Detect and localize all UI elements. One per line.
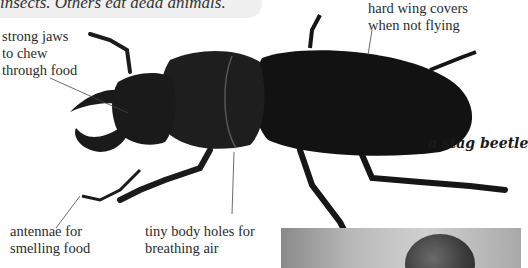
label-holes-line-1: tiny body holes for	[145, 223, 255, 240]
label-holes-line-2: breathing air	[145, 240, 255, 257]
label-jaws-line-3: through food	[2, 62, 77, 79]
label-body-holes: tiny body holes for breathing air	[145, 223, 255, 257]
photo-inset	[281, 228, 521, 268]
label-jaws: strong jaws to chew through food	[2, 28, 77, 79]
label-wings-line-2: when not flying	[368, 17, 468, 34]
caption: a stag beetle	[428, 135, 528, 151]
label-antennae-line-2: smelling food	[10, 240, 90, 257]
label-antennae-line-1: antennae for	[10, 223, 90, 240]
label-wings-line-1: hard wing covers	[368, 0, 468, 17]
label-jaws-line-2: to chew	[2, 45, 77, 62]
label-jaws-line-1: strong jaws	[2, 28, 77, 45]
photo-subject	[405, 234, 475, 268]
label-antennae: antennae for smelling food	[10, 223, 90, 257]
label-wing-covers: hard wing covers when not flying	[368, 0, 468, 34]
